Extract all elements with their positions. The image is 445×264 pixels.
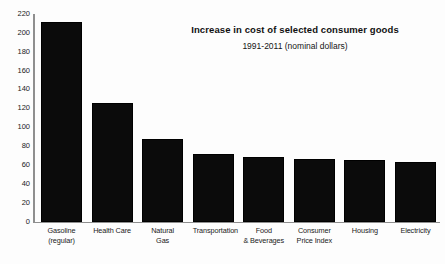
x-tick-label-line1: Health Care [93,226,131,235]
x-tick-label-line1: Natural [151,226,174,235]
x-tick-label: Gasoline(regular) [41,226,82,245]
bar-column[interactable] [344,14,385,222]
y-tick-label: 0 [2,218,30,226]
bar[interactable] [243,157,284,221]
x-tick-label-line1: Housing [352,226,378,235]
x-tick-label-line2: & Beverages [243,236,284,246]
bar-column[interactable] [193,14,234,222]
x-tick-label: Housing [344,226,385,245]
y-tick-label: 120 [2,104,30,112]
bar[interactable] [142,139,183,222]
bar[interactable] [41,22,82,222]
y-tick-label: 180 [2,48,30,56]
bar[interactable] [344,160,385,221]
y-tick-label: 200 [2,29,30,37]
bar-column[interactable] [142,14,183,222]
x-tick-label-line1: Food [256,226,272,235]
x-axis-tick-labels: Gasoline(regular)Health CareNaturalGasTr… [35,226,440,245]
y-tick-label: 20 [2,199,30,207]
x-tick-label: Food& Beverages [243,226,284,245]
plot-area [33,14,440,223]
y-tick-label: 60 [2,161,30,169]
bar-column[interactable] [243,14,284,222]
x-tick-label: Electricity [395,226,436,245]
bar[interactable] [294,159,335,221]
x-tick-label-line1: Transportation [193,226,238,235]
x-tick-label: Transportation [193,226,234,245]
bar-column[interactable] [294,14,335,222]
x-tick-label-line2: (regular) [41,236,82,246]
y-tick-label: 140 [2,85,30,93]
bar[interactable] [92,103,133,222]
y-tick-label: 220 [2,10,30,18]
y-tick-label: 160 [2,67,30,75]
bar[interactable] [193,154,234,222]
bar-column[interactable] [41,14,82,222]
bar-chart: Increase in cost of selected consumer go… [0,0,445,264]
bar-column[interactable] [92,14,133,222]
x-tick-label: Health Care [92,226,133,245]
x-tick-label-line2: Price Index [294,236,335,246]
y-tick-label: 40 [2,180,30,188]
bar-series [35,14,440,222]
x-tick-label-line1: Electricity [400,226,430,235]
x-tick-label-line2: Gas [142,236,183,246]
x-tick-label-line1: Consumer [298,226,331,235]
x-axis-line [33,222,440,224]
bar[interactable] [395,162,436,221]
x-tick-label: ConsumerPrice Index [294,226,335,245]
y-tick-label: 100 [2,123,30,131]
bar-column[interactable] [395,14,436,222]
x-tick-label-line1: Gasoline [48,226,76,235]
y-tick-label: 80 [2,142,30,150]
x-tick-label: NaturalGas [142,226,183,245]
